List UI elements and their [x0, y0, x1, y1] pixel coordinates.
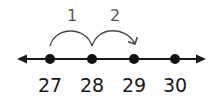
- jump-arc-1: [50, 31, 92, 46]
- tick-label-29: 29: [122, 74, 146, 96]
- number-line: 1 2 27 28 29 30: [0, 0, 221, 101]
- point-dot-30: [170, 54, 180, 64]
- tick-label-27: 27: [38, 74, 62, 96]
- point-dot-29: [129, 54, 139, 64]
- jump-label-2: 2: [110, 6, 120, 25]
- left-arrow-icon: [17, 55, 27, 64]
- tick-label-28: 28: [80, 74, 104, 96]
- point-dot-28: [87, 54, 97, 64]
- point-dot-27: [45, 54, 55, 64]
- jump-label-1: 1: [67, 6, 77, 25]
- right-arrow-icon: [196, 55, 206, 64]
- tick-label-30: 30: [163, 74, 187, 96]
- jump-arc-2: [92, 31, 135, 46]
